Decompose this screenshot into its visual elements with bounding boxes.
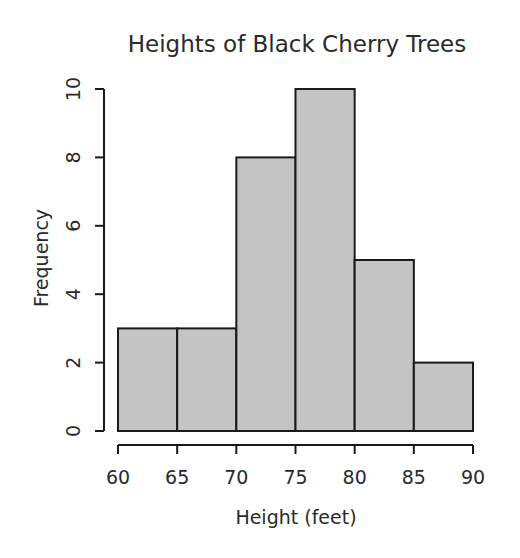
y-tick-label: 6 xyxy=(62,220,84,232)
histogram-chart: Heights of Black Cherry Trees 0246810 60… xyxy=(0,0,520,558)
histogram-bar xyxy=(118,328,177,431)
x-tick-label: 65 xyxy=(165,466,189,488)
y-tick-label: 10 xyxy=(62,77,84,101)
y-axis: 0246810 xyxy=(62,77,104,437)
x-tick-label: 90 xyxy=(461,466,485,488)
x-tick-label: 85 xyxy=(402,466,426,488)
x-axis-label: Height (feet) xyxy=(235,506,356,528)
y-tick-label: 4 xyxy=(62,288,84,300)
x-tick-label: 60 xyxy=(106,466,130,488)
histogram-bar xyxy=(414,363,473,431)
y-tick-label: 0 xyxy=(62,425,84,437)
histogram-bar xyxy=(177,328,236,431)
histogram-bar xyxy=(355,260,414,431)
x-tick-label: 80 xyxy=(343,466,367,488)
y-tick-label: 2 xyxy=(62,357,84,369)
bars-group xyxy=(118,89,473,431)
x-tick-label: 70 xyxy=(224,466,248,488)
histogram-bar xyxy=(296,89,355,431)
y-axis-label: Frequency xyxy=(30,209,52,307)
chart-title: Heights of Black Cherry Trees xyxy=(128,31,466,57)
x-axis: 60657075808590 xyxy=(106,445,485,488)
y-tick-label: 8 xyxy=(62,151,84,163)
histogram-bar xyxy=(236,157,295,431)
x-tick-label: 75 xyxy=(283,466,307,488)
